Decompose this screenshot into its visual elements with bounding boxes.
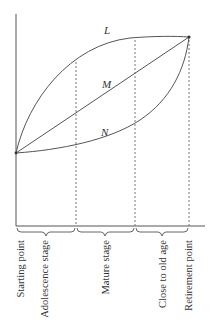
life-cycle-diagram: L M N Starting point Adolescence stage M…	[0, 0, 217, 331]
label-mature-stage: Mature stage	[100, 240, 111, 295]
curve-label-M: M	[101, 78, 112, 90]
curve-label-N: N	[100, 126, 109, 138]
label-adolescence-stage: Adolescence stage	[39, 240, 50, 318]
start-point-marker	[15, 152, 18, 155]
curve-label-L: L	[103, 24, 110, 36]
brace-old-age	[136, 228, 188, 236]
brace-adolescence	[17, 228, 75, 236]
label-close-to-old-age: Close to old age	[157, 240, 168, 308]
end-point-marker	[187, 35, 190, 38]
label-retirement-point: Retirement point	[183, 240, 194, 311]
label-starting-point: Starting point	[15, 240, 26, 298]
brace-mature	[77, 228, 134, 236]
